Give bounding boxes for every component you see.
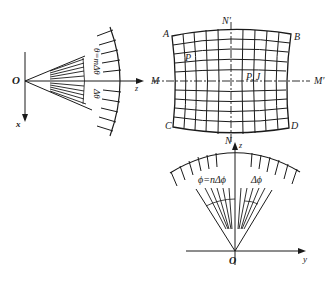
grid-label-M: M — [150, 75, 160, 86]
diagram-canvas: O x z θ=mΔθ Δθ — [0, 0, 330, 281]
phi-equals-label: ϕ=nΔϕ — [198, 174, 226, 185]
grid-label-N-prime: N′ — [221, 15, 232, 26]
corner-label-C: C — [165, 120, 172, 131]
left-z-axis-label: z — [134, 84, 139, 93]
bottom-z-axis-label: z — [238, 141, 243, 150]
delta-phi-label: Δϕ — [250, 174, 262, 185]
corner-label-D: D — [290, 120, 299, 131]
left-origin-label: O — [12, 74, 20, 86]
diagram-svg: O x z θ=mΔθ Δθ — [0, 0, 330, 281]
fan-boundary-ray-bottom — [25, 81, 92, 110]
left-x-axis-label: x — [15, 119, 21, 129]
grid-label-N: N — [224, 135, 233, 146]
bottom-y-axis-label: y — [302, 254, 307, 264]
bottom-fan-diagram: O y z ϕ=nΔϕ Δϕ — [170, 141, 307, 266]
bottom-origin-label: O — [229, 255, 236, 266]
grid-point-label-P: P — [184, 52, 191, 63]
delta-theta-label: Δθ — [92, 88, 102, 99]
pincushion-grid-diagram: A B C D M M′ N′ N P P, J — [150, 15, 325, 146]
corner-label-B: B — [294, 31, 300, 42]
corner-label-A: A — [162, 28, 170, 39]
delta-phi-arc — [245, 201, 258, 204]
bottom-outer-arc-ticks — [171, 153, 297, 186]
theta-equals-label: θ=mΔθ — [92, 48, 102, 75]
left-fan-diagram: O x z θ=mΔθ Δθ — [12, 27, 144, 136]
grid-point-label-PJ: P, J — [245, 71, 261, 82]
bottom-z-axis-arrow-icon — [232, 142, 238, 150]
grid-boundary — [172, 29, 291, 132]
x-axis-arrow-icon — [22, 114, 28, 122]
grid-label-M-prime: M′ — [313, 75, 325, 86]
